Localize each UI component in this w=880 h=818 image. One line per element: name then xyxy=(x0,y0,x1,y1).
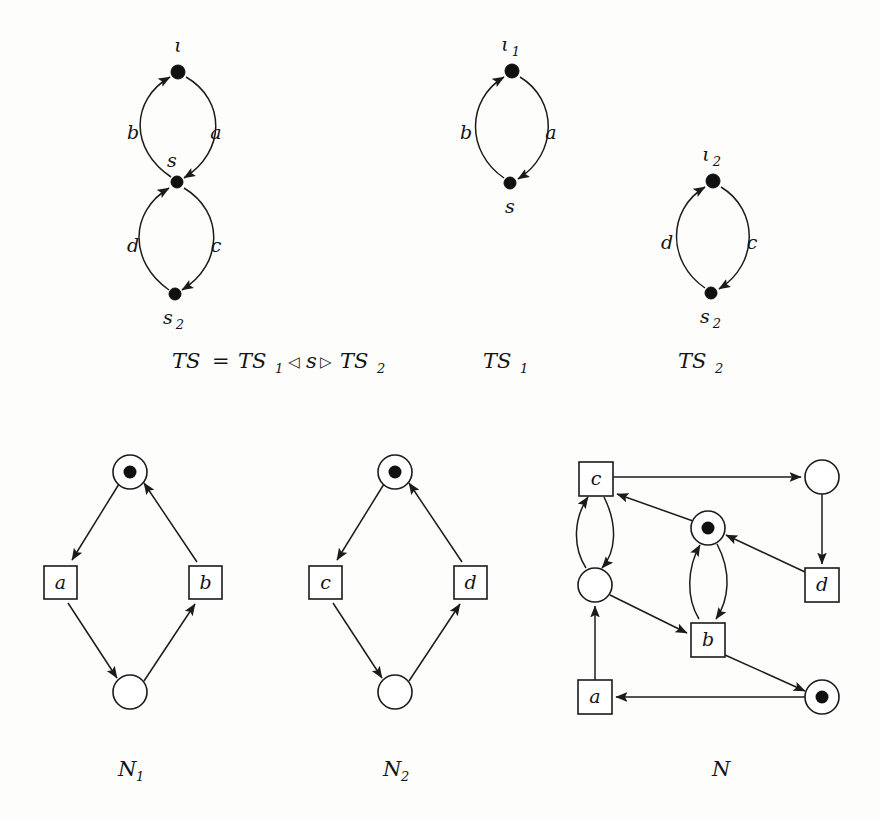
ts-state-iota[interactable] xyxy=(171,65,185,79)
n-transition-d[interactable]: d xyxy=(805,568,839,602)
svg-text:▷: ▷ xyxy=(320,353,332,371)
n2-transition-d[interactable]: d xyxy=(454,566,487,599)
n1-arc-a-to-p2 xyxy=(68,603,117,678)
n1-arc-p2-to-b xyxy=(144,604,195,681)
svg-text:a: a xyxy=(589,685,600,707)
svg-text:N: N xyxy=(117,757,137,781)
ts2-state-iota2[interactable] xyxy=(706,174,720,188)
svg-text:d: d xyxy=(464,571,476,593)
svg-text:s: s xyxy=(163,306,173,328)
n2-arc-c-to-p2 xyxy=(333,603,382,678)
svg-text:ι: ι xyxy=(702,143,709,165)
n2-arc-p1-to-c xyxy=(337,484,384,560)
ts-edge-label-a: a xyxy=(210,121,221,143)
petri-net-N: c d b a N xyxy=(576,460,839,781)
ts1-state-label-s: s xyxy=(505,195,515,217)
n1-place-marked[interactable] xyxy=(113,455,147,489)
n-place-middle-marked[interactable] xyxy=(691,511,725,545)
svg-text:2: 2 xyxy=(175,317,184,332)
n2-transition-c[interactable]: c xyxy=(309,566,342,599)
svg-text:2: 2 xyxy=(712,154,721,169)
n-place-bottom-right-marked[interactable] xyxy=(805,680,839,714)
svg-text:1: 1 xyxy=(520,361,528,376)
transition-system-TS2: ι 2 s 2 c d xyxy=(661,143,758,331)
ts-edge-label-d: d xyxy=(127,234,139,256)
ts-edge-d xyxy=(139,188,169,290)
ts2-edge-label-d: d xyxy=(661,231,673,253)
caption-N: N xyxy=(711,757,731,781)
figure-svg: ι s s 2 a b c d ι 1 s a b ι 2 xyxy=(0,0,880,818)
ts1-edge-a xyxy=(518,77,548,179)
n2-place-marked[interactable] xyxy=(378,455,412,489)
n1-transition-a[interactable]: a xyxy=(44,566,77,599)
n1-place-empty[interactable] xyxy=(113,675,147,709)
svg-text:d: d xyxy=(816,573,828,595)
svg-text:b: b xyxy=(199,571,211,593)
svg-text:N: N xyxy=(382,757,402,781)
n-place-left[interactable] xyxy=(578,568,612,602)
svg-text:b: b xyxy=(702,628,714,650)
svg-text:1: 1 xyxy=(275,361,283,376)
caption-N2: N 2 xyxy=(382,757,409,784)
svg-text:c: c xyxy=(591,467,602,489)
n-place-top-right[interactable] xyxy=(805,460,839,494)
ts1-edge-label-a: a xyxy=(545,121,556,143)
figure-canvas: ι s s 2 a b c d ι 1 s a b ι 2 xyxy=(0,0,880,818)
n-transition-b[interactable]: b xyxy=(691,623,725,657)
n1-arc-p1-to-a xyxy=(72,484,119,560)
ts2-state-s2[interactable] xyxy=(705,287,717,299)
n2-place-empty[interactable] xyxy=(378,675,412,709)
ts2-edge-c xyxy=(719,187,749,289)
token xyxy=(389,466,402,479)
svg-text:2: 2 xyxy=(376,361,385,376)
caption-N1: N 1 xyxy=(117,757,144,784)
caption-TS: TS = TS 1 ◁ s ▷ TS 2 xyxy=(172,349,385,376)
token xyxy=(124,466,137,479)
n2-arc-p2-to-d xyxy=(409,604,460,681)
svg-text:TS: TS xyxy=(172,349,200,373)
ts-edge-label-c: c xyxy=(211,234,222,256)
n1-transition-b[interactable]: b xyxy=(189,566,222,599)
n-arc-pM-to-b xyxy=(716,544,727,619)
n-arc-pL-to-c xyxy=(576,497,588,568)
ts2-state-label-iota2: ι 2 xyxy=(702,143,721,169)
ts-edge-label-b: b xyxy=(127,121,139,143)
svg-text:1: 1 xyxy=(512,44,520,59)
n-arc-b-to-pBR xyxy=(725,655,805,691)
n-transition-c[interactable]: c xyxy=(579,462,613,496)
ts2-edge-d xyxy=(677,187,706,288)
caption-TS1: TS 1 xyxy=(483,349,528,376)
svg-text:s: s xyxy=(306,349,317,373)
token xyxy=(702,522,715,535)
ts1-edge-label-b: b xyxy=(460,121,472,143)
petri-net-N1: a b N 1 xyxy=(44,455,222,784)
n-arc-d-to-pM xyxy=(726,535,805,572)
n-transition-a[interactable]: a xyxy=(578,680,612,714)
svg-text:N: N xyxy=(711,757,731,781)
svg-text:=: = xyxy=(212,349,230,373)
svg-text:2: 2 xyxy=(714,361,723,376)
svg-text:1: 1 xyxy=(136,769,144,784)
svg-text:◁: ◁ xyxy=(288,353,300,371)
petri-net-N2: c d N 2 xyxy=(309,455,487,784)
n-arc-pL-to-b xyxy=(610,595,687,633)
ts-state-s2[interactable] xyxy=(169,288,181,300)
svg-text:TS: TS xyxy=(238,349,266,373)
svg-text:a: a xyxy=(55,571,66,593)
transition-system-TS1: ι 1 s a b xyxy=(460,33,557,217)
ts1-state-s[interactable] xyxy=(504,177,516,189)
ts1-edge-b xyxy=(476,77,505,178)
ts-state-label-s2: s 2 xyxy=(163,306,184,332)
svg-text:TS: TS xyxy=(483,349,511,373)
svg-text:s: s xyxy=(700,305,710,327)
ts2-edge-label-c: c xyxy=(747,231,758,253)
svg-text:2: 2 xyxy=(400,769,409,784)
ts1-state-iota1[interactable] xyxy=(505,64,519,78)
n1-arc-b-to-p1 xyxy=(144,483,197,562)
n-arc-b-to-pM xyxy=(690,545,700,619)
n-arc-c-to-pL xyxy=(602,497,614,568)
caption-TS2: TS 2 xyxy=(678,349,723,376)
ts-state-s[interactable] xyxy=(171,176,183,188)
ts1-state-label-iota1: ι 1 xyxy=(501,33,520,59)
svg-text:TS: TS xyxy=(678,349,706,373)
